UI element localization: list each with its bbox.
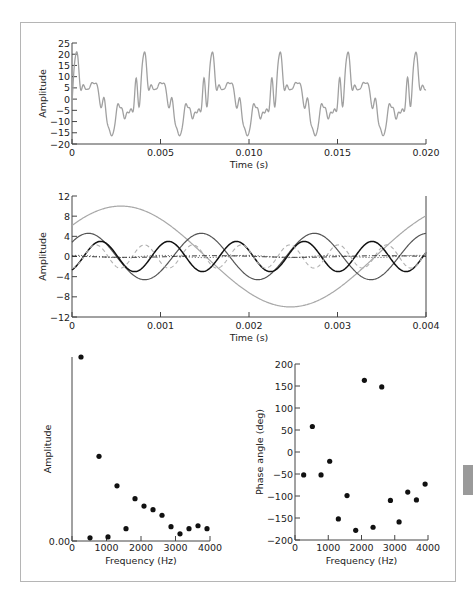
x-axis-title: Frequency (Hz) <box>326 555 398 566</box>
data-point <box>123 526 128 531</box>
data-point <box>195 523 200 528</box>
data-point <box>310 424 315 429</box>
y-tick-label: −8 <box>56 291 70 302</box>
y-tick-label: 8 <box>64 211 70 222</box>
data-point <box>423 482 428 487</box>
y-tick-label: 200 <box>275 359 293 370</box>
y-tick-label: 15 <box>58 60 70 71</box>
y-tick-label: 50 <box>281 425 293 436</box>
data-point <box>150 507 155 512</box>
x-tick-label: 0.004 <box>412 320 439 331</box>
x-tick-label: 1000 <box>94 542 118 553</box>
data-point <box>379 384 384 389</box>
data-point <box>132 496 137 501</box>
data-point <box>353 528 358 533</box>
y-axis-title: Amplitude <box>37 232 48 281</box>
y-tick-label: 5 <box>64 82 70 93</box>
y-tick-label: −150 <box>267 513 293 524</box>
data-point <box>159 513 164 518</box>
phase-spectrum-chart: 200150100500−50−100−150−2000100020003000… <box>254 359 440 567</box>
y-tick-label: −200 <box>267 535 293 546</box>
y-tick-label: 4 <box>64 231 70 242</box>
y-tick-label: −4 <box>56 271 70 282</box>
data-point <box>388 498 393 503</box>
y-tick-label: −5 <box>56 105 70 116</box>
x-tick-label: 0.003 <box>324 320 351 331</box>
x-tick-label: 0.020 <box>412 147 439 158</box>
x-tick-label: 0 <box>292 542 298 553</box>
data-point <box>362 378 367 383</box>
y-axis-title: Amplitude <box>42 425 53 474</box>
data-point <box>78 354 83 359</box>
figure-canvas: 2520151050−5−10−15−2000.0050.0100.0150.0… <box>0 0 473 596</box>
waveform-chart: 2520151050−5−10−15−2000.0050.0100.0150.0… <box>37 38 440 171</box>
y-axis-title: Phase angle (deg) <box>254 409 265 495</box>
data-point <box>141 503 146 508</box>
data-point <box>177 531 182 536</box>
data-point <box>186 526 191 531</box>
y-tick-label: 0.00 <box>49 536 70 547</box>
data-point <box>168 524 173 529</box>
data-point <box>414 497 419 502</box>
data-point <box>405 489 410 494</box>
x-axis-title: Frequency (Hz) <box>105 555 177 566</box>
y-tick-label: 100 <box>275 403 293 414</box>
x-tick-label: 3000 <box>383 542 407 553</box>
y-tick-label: 20 <box>58 49 70 60</box>
y-tick-label: −20 <box>50 139 70 150</box>
data-point <box>96 454 101 459</box>
y-tick-label: −15 <box>50 127 70 138</box>
data-point <box>336 516 341 521</box>
y-tick-label: −100 <box>267 491 293 502</box>
x-tick-label: 2000 <box>349 542 373 553</box>
x-tick-label: 0.001 <box>147 320 174 331</box>
data-point <box>344 493 349 498</box>
y-axis-title: Amplitude <box>37 69 48 118</box>
y-tick-label: 150 <box>275 381 293 392</box>
data-point <box>204 526 209 531</box>
y-tick-label: 0 <box>64 251 70 262</box>
y-tick-label: −10 <box>50 116 70 127</box>
data-point <box>301 472 306 477</box>
x-tick-label: 1000 <box>316 542 340 553</box>
components-chart: 12840−4−8−1200.0010.0020.0030.004Time (s… <box>37 191 440 344</box>
data-point <box>318 472 323 477</box>
waveform-curve <box>72 52 426 136</box>
x-tick-label: 0 <box>69 147 75 158</box>
x-tick-label: 3000 <box>163 542 187 553</box>
x-tick-label: 0.015 <box>324 147 351 158</box>
x-tick-label: 4000 <box>198 542 222 553</box>
y-tick-label: 25 <box>58 38 70 49</box>
y-tick-label: −50 <box>273 469 293 480</box>
data-point <box>370 525 375 530</box>
y-tick-label: 10 <box>58 71 70 82</box>
y-tick-label: 12 <box>58 191 70 202</box>
x-tick-label: 0.010 <box>235 147 262 158</box>
data-point <box>396 519 401 524</box>
x-axis-title: Time (s) <box>229 159 269 170</box>
data-point <box>114 483 119 488</box>
data-point <box>105 534 110 539</box>
x-tick-label: 2000 <box>129 542 153 553</box>
x-axis-title: Time (s) <box>229 332 269 343</box>
data-point <box>327 459 332 464</box>
data-point <box>87 535 92 540</box>
x-tick-label: 4000 <box>416 542 440 553</box>
x-tick-label: 0 <box>69 542 75 553</box>
x-tick-label: 0.002 <box>235 320 262 331</box>
amplitude-spectrum-chart: 0.0001000200030004000Frequency (Hz)Ampli… <box>42 354 222 566</box>
x-tick-label: 0.005 <box>147 147 174 158</box>
y-tick-label: 0 <box>64 94 70 105</box>
x-tick-label: 0 <box>69 320 75 331</box>
y-tick-label: −12 <box>50 312 70 323</box>
y-tick-label: 0 <box>287 447 293 458</box>
